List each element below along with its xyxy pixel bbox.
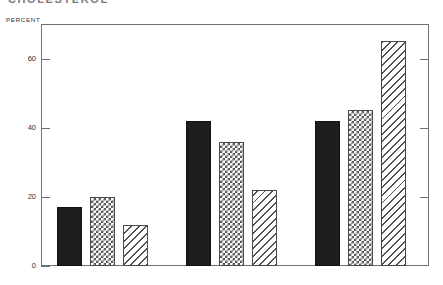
bar xyxy=(381,41,406,266)
bar-group xyxy=(315,24,406,266)
y-axis-label: PERCENT xyxy=(6,16,40,23)
y-tick-label: 60 xyxy=(28,54,36,63)
bar xyxy=(219,142,244,266)
plot-area xyxy=(42,24,429,266)
bar-group xyxy=(186,24,277,266)
chart-title: CHOLESTEROL xyxy=(8,0,109,5)
bar xyxy=(186,121,211,266)
y-tick-left xyxy=(41,266,50,267)
bar xyxy=(252,190,277,266)
bar-chart: CHOLESTEROL PERCENT 0204060 xyxy=(0,0,443,285)
bar xyxy=(90,197,115,266)
bar xyxy=(315,121,340,266)
bar xyxy=(123,225,148,266)
y-tick-label: 0 xyxy=(32,261,36,270)
bar-group xyxy=(57,24,148,266)
y-tick-label: 20 xyxy=(28,192,36,201)
bar xyxy=(57,207,82,266)
y-tick-label: 40 xyxy=(28,123,36,132)
bar xyxy=(348,110,373,266)
